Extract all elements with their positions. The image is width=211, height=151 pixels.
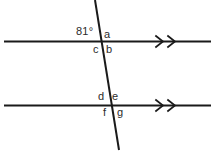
angle-label-e: e [112,91,118,102]
transversal-line [95,0,119,150]
angle-label-a: a [104,29,110,40]
geometry-canvas [0,0,211,151]
angle-label-g: g [117,107,123,118]
angle-measure-label: 81° [76,26,93,37]
angle-label-d: d [98,91,104,102]
angle-label-c: c [93,44,99,55]
angle-label-f: f [103,107,106,118]
angle-label-b: b [106,44,112,55]
geometry-diagram: 81° a c b d e f g [0,0,211,151]
